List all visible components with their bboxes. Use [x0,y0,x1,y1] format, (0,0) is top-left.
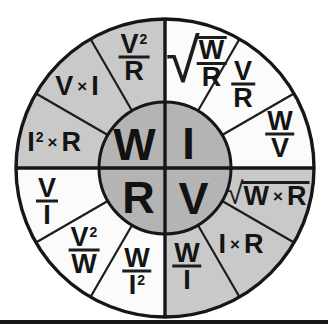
denominator: R [122,60,146,82]
wheel-graphic [0,0,328,333]
numerator: W [265,110,294,132]
numerator: V2 [69,226,100,248]
formula-current-sqrt-w-over-r: √ W R [166,36,227,88]
formula-voltage-i-times-r: I×R [219,231,264,259]
multiply-operator: × [269,187,287,206]
denominator: W [69,253,98,275]
numerator: V2 [119,33,150,55]
product-under-radical: W×R [242,181,310,211]
formula-current-v-over-r: V R [231,60,255,109]
center-letter-voltage: V [178,176,207,221]
denominator: R [231,87,255,109]
multiply-operator: × [43,133,61,152]
formula-resistance-v2-over-w: V2 W [69,226,100,275]
formula-wheel-diagram: W I R V V2 R V×I I2×R √ W R V R W V √ W×… [0,0,328,333]
formula-power-i2-times-r: I2×R [27,129,81,157]
numerator: V [36,177,58,199]
numerator: W [197,39,226,61]
radical-sign: √ [166,35,200,87]
bottom-rule [0,320,328,324]
numerator: V [232,60,254,82]
formula-power-v2-over-r: V2 R [119,33,150,82]
numerator: W [122,247,151,269]
product-expression: V×I [55,75,98,101]
numerator: W [172,242,201,264]
center-letter-watts: W [113,122,154,167]
formula-power-v-times-i: V×I [55,73,98,101]
formula-current-w-over-v: W V [265,110,294,159]
denominator: I [181,269,193,291]
multiply-operator: × [226,235,244,254]
center-letter-resistance: R [122,175,154,220]
multiply-operator: × [73,77,91,96]
denominator: V [269,137,291,159]
formula-voltage-w-over-i: W I [172,242,201,291]
center-letter-current: I [182,121,194,166]
denominator: I [41,204,53,226]
product-expression: I×R [219,233,264,259]
formula-resistance-w-over-i2: W I2 [122,247,151,296]
product-expression: I2×R [27,131,81,157]
fraction-under-radical: W R [197,36,226,88]
denominator: I2 [127,274,147,296]
formula-voltage-sqrt-w-times-r: √ W×R [227,181,310,211]
formula-resistance-v-over-i: V I [36,177,58,226]
denominator: R [200,66,224,88]
